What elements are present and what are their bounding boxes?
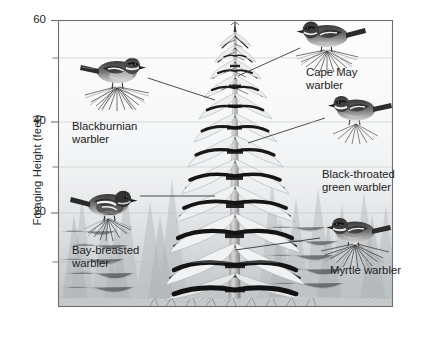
y-axis-title: Foraging Height (feet)	[31, 75, 43, 265]
label-line-1: Blackburnian	[72, 120, 137, 133]
label-line-1: Black-throated	[322, 168, 395, 181]
label-line-1: Myrtle warbler	[330, 264, 401, 277]
label-line-2: warbler	[72, 133, 137, 146]
label-bay-breasted-warbler: Bay-breasted warbler	[72, 244, 139, 269]
label-myrtle-warbler: Myrtle warbler	[330, 264, 401, 277]
label-black-throated-green-warbler: Black-throated green warbler	[322, 168, 395, 193]
label-line-1: Cape May	[306, 66, 358, 79]
label-line-2: warbler	[72, 257, 139, 270]
y-tick-label-60: 60	[20, 13, 46, 25]
label-line-1: Bay-breasted	[72, 244, 139, 257]
label-blackburnian-warbler: Blackburnian warbler	[72, 120, 137, 145]
y-tick-label-20: 20	[20, 205, 46, 217]
label-line-2: warbler	[306, 79, 358, 92]
label-line-2: green warbler	[322, 181, 395, 194]
foraging-height-figure: Foraging Height (feet) 60 40 20 Blackbur…	[0, 0, 425, 342]
axis-ticks	[51, 21, 59, 263]
y-tick-label-40: 40	[20, 114, 46, 126]
label-cape-may-warbler: Cape May warbler	[306, 66, 358, 91]
